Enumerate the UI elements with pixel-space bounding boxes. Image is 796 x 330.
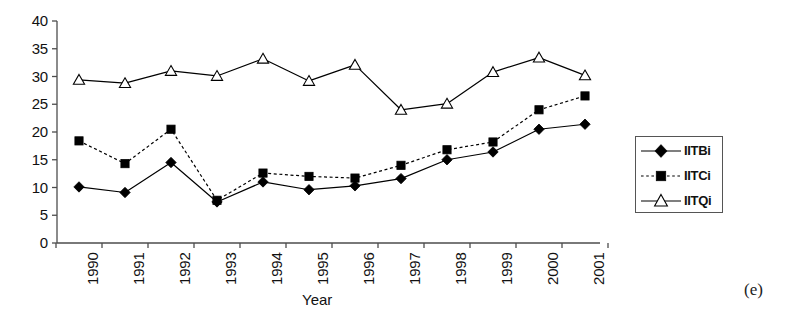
data-point-marker-filled-square (213, 196, 221, 204)
data-point-marker-open-triangle (579, 70, 590, 80)
data-point-marker-filled-square (489, 138, 497, 146)
x-axis-tick-label: 1994 (269, 252, 284, 285)
x-axis-tick-label: 1999 (499, 252, 514, 285)
data-point-marker-open-triangle (303, 76, 314, 86)
series-line-iitqi (79, 58, 585, 110)
data-point-marker-open-triangle (533, 52, 544, 62)
x-axis-tick-label: 2001 (591, 252, 606, 285)
data-point-marker-filled-diamond (488, 147, 498, 157)
x-axis-tick-label: 2000 (545, 252, 560, 285)
legend-row-iitqi[interactable]: IITQi (636, 189, 724, 213)
legend-label-iitqi: IITQi (684, 193, 711, 208)
data-point-marker-filled-diamond (258, 177, 268, 187)
y-axis-tick-label: 10 (14, 180, 48, 195)
legend-marker-filled-square-icon (640, 164, 682, 188)
data-point-marker-filled-square (75, 137, 83, 145)
y-axis-tick-label: 35 (14, 41, 48, 56)
legend-marker-filled-diamond-icon (640, 139, 682, 163)
x-axis-tick-label: 1998 (453, 252, 468, 285)
legend-row-iitci[interactable]: IITCi (636, 164, 724, 188)
figure-caption: (e) (744, 281, 763, 299)
y-axis-tick-label: 25 (14, 96, 48, 111)
data-point-marker-filled-diamond (580, 119, 590, 129)
data-point-marker-filled-square (121, 160, 129, 168)
legend-label-iitbi: IITBi (684, 143, 711, 158)
legend-label-iitci: IITCi (684, 168, 711, 183)
data-point-marker-filled-square (581, 92, 589, 100)
x-axis-tick-label: 1991 (131, 252, 146, 285)
y-axis-tick-label: 20 (14, 124, 48, 139)
data-point-marker-filled-diamond (74, 182, 84, 192)
data-point-marker-filled-diamond (534, 124, 544, 134)
data-point-marker-filled-square (305, 172, 313, 180)
series-iitqi (73, 52, 590, 114)
y-axis-tick-label: 40 (14, 13, 48, 28)
data-point-marker-filled-square (351, 174, 359, 182)
x-axis-tick-label: 1995 (315, 252, 330, 285)
y-axis-tick-label: 0 (14, 235, 48, 250)
x-axis-tick-label: 1993 (223, 252, 238, 285)
legend-row-iitbi[interactable]: IITBi (636, 139, 724, 163)
data-point-marker-filled-square (535, 106, 543, 114)
data-point-marker-filled-square (259, 169, 267, 177)
y-axis-tick-label: 5 (14, 207, 48, 222)
data-point-marker-open-triangle (257, 53, 268, 63)
data-point-marker-filled-diamond (304, 185, 314, 195)
data-point-marker-open-triangle (349, 59, 360, 69)
x-axis-tick-label: 1992 (177, 252, 192, 285)
y-axis-tick-label: 30 (14, 69, 48, 84)
data-point-marker-filled-diamond (396, 173, 406, 183)
figure-root: 0510152025303540 19901991199219931994199… (0, 0, 796, 330)
data-point-marker-filled-square (443, 146, 451, 154)
data-point-marker-filled-diamond (120, 187, 130, 197)
y-axis-tick-label: 15 (14, 152, 48, 167)
data-point-marker-open-triangle (73, 74, 84, 84)
series-iitbi (74, 119, 590, 207)
data-point-marker-filled-square (397, 161, 405, 169)
legend-marker-open-triangle-icon (640, 189, 682, 213)
data-point-marker-open-triangle (441, 98, 452, 108)
data-point-marker-filled-diamond (442, 155, 452, 165)
chart-legend: IITBi IITCi IITQi (635, 136, 723, 213)
x-axis-tick-label: 1990 (85, 252, 100, 285)
data-point-marker-open-triangle (165, 66, 176, 76)
series-line-iitbi (79, 124, 585, 202)
x-axis-title: Year (302, 292, 332, 308)
data-point-marker-open-triangle (487, 67, 498, 77)
x-axis-tick-label: 1996 (361, 252, 376, 285)
axis-layer (52, 21, 608, 248)
series-line-iitci (79, 96, 585, 200)
x-axis-tick-label: 1997 (407, 252, 422, 285)
data-point-marker-filled-square (167, 125, 175, 133)
series-layer (73, 52, 590, 207)
